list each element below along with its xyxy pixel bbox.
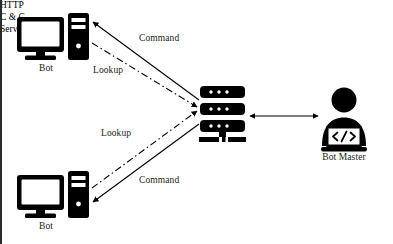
diagram-canvas: Bot Bot HTTP C & C Server Bot Master Com… <box>0 0 393 244</box>
bot-master-label: Bot Master <box>306 152 382 163</box>
edge-label-lookup-bottom: Lookup <box>101 128 131 139</box>
bot-bottom-icon <box>17 171 89 218</box>
bot-top-label: Bot <box>14 63 78 74</box>
diagram-graphics <box>0 0 393 244</box>
edge-label-lookup-top: Lookup <box>93 65 123 76</box>
bot-bottom-label: Bot <box>14 221 78 232</box>
bot-top-icon <box>17 13 89 60</box>
edge-label-command-bottom: Command <box>139 175 179 186</box>
bot-master-icon <box>321 88 367 152</box>
server-rack-icon <box>199 86 246 142</box>
edge-label-command-top: Command <box>139 33 179 44</box>
